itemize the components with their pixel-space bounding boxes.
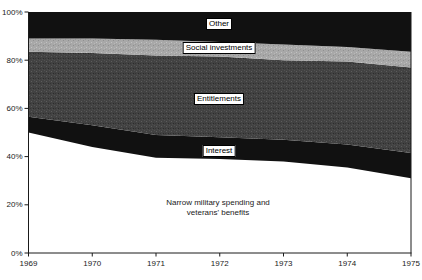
y-tick-label: 60% bbox=[6, 104, 22, 113]
x-tick-label: 1973 bbox=[275, 259, 293, 268]
military-label-line2: veterans' benefits bbox=[166, 208, 270, 218]
chart-canvas: 0%20%40%60%80%100%1969197019711972197319… bbox=[0, 0, 422, 280]
x-tick-label: 1974 bbox=[338, 259, 356, 268]
area-label-other: Other bbox=[206, 18, 232, 30]
x-tick-label: 1975 bbox=[402, 259, 420, 268]
x-tick-label: 1969 bbox=[20, 259, 38, 268]
y-tick-label: 20% bbox=[6, 200, 22, 209]
area-label-military: Narrow military spending and veterans' b… bbox=[166, 198, 270, 218]
y-tick-label: 0% bbox=[11, 249, 23, 258]
x-tick-label: 1970 bbox=[83, 259, 101, 268]
x-tick-label: 1971 bbox=[147, 259, 165, 268]
y-tick-label: 40% bbox=[6, 152, 22, 161]
area-label-interest: Interest bbox=[203, 145, 236, 157]
military-label-line1: Narrow military spending and bbox=[166, 198, 270, 208]
area-label-social-investments: Social investments bbox=[183, 42, 256, 54]
x-tick-label: 1972 bbox=[211, 259, 229, 268]
y-tick-label: 80% bbox=[6, 56, 22, 65]
y-tick-label: 100% bbox=[2, 8, 22, 17]
area-label-entitlements: Entitlements bbox=[194, 93, 244, 105]
